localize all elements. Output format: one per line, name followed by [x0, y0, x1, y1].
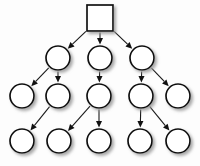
- tree-graph-svg: [0, 0, 200, 166]
- arrowhead-n6-to-n11: [96, 121, 102, 128]
- edge-n0-to-n1: [72, 31, 85, 44]
- graph-node-n8[interactable]: [166, 84, 190, 108]
- graph-node-n13[interactable]: [166, 129, 190, 153]
- arrowhead-n5-to-n9: [30, 124, 36, 131]
- edge-n5-to-n9: [34, 107, 49, 126]
- graph-node-n11[interactable]: [87, 129, 111, 153]
- graph-node-n9[interactable]: [10, 129, 34, 153]
- arrowhead-n1-to-n5: [55, 76, 61, 83]
- graph-node-n1[interactable]: [46, 46, 70, 70]
- graph-node-n7[interactable]: [129, 84, 153, 108]
- graph-node-n10[interactable]: [47, 129, 71, 153]
- edge-n0-to-n3: [114, 31, 127, 44]
- edge-n6-to-n10: [72, 106, 90, 126]
- arrowhead-n7-to-n12: [137, 121, 143, 128]
- graph-node-n12[interactable]: [128, 129, 152, 153]
- edge-n3-to-n8: [151, 68, 164, 82]
- diagram-canvas: [0, 0, 200, 166]
- graph-node-n4[interactable]: [10, 84, 34, 108]
- graph-node-n0[interactable]: [87, 5, 113, 31]
- edge-n1-to-n4: [36, 68, 49, 82]
- graph-node-n5[interactable]: [46, 84, 70, 108]
- arrowhead-n0-to-n2: [97, 38, 103, 45]
- arrowhead-n3-to-n7: [139, 76, 145, 83]
- arrowhead-n2-to-n6: [97, 76, 103, 83]
- graph-node-n6[interactable]: [87, 84, 111, 108]
- graph-node-n2[interactable]: [88, 46, 112, 70]
- edge-n7-to-n13: [150, 106, 166, 125]
- graph-node-n3[interactable]: [130, 46, 154, 70]
